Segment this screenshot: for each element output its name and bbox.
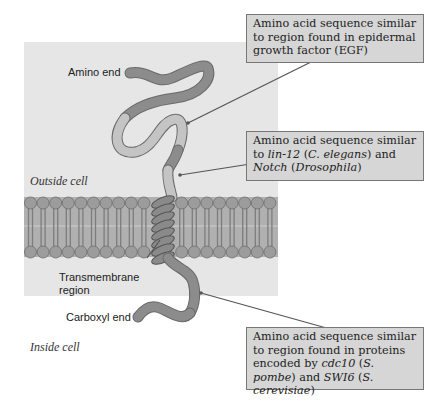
amino-end-label: Amino end [68,66,121,79]
callout-egf: Amino acid sequence similar to region fo… [246,14,424,63]
carboxyl-end-label: Carboxyl end [66,311,131,324]
transmembrane-label-line2: region [59,284,139,297]
callout-cdc10-swi6: Amino acid sequence similar to region fo… [246,327,424,390]
lipid-bilayer [24,197,278,258]
transmembrane-label-line1: Transmembrane [59,271,139,284]
transmembrane-label: Transmembrane region [59,271,139,297]
inside-cell-label: Inside cell [30,340,80,355]
callout-lin12-notch: Amino acid sequence similar to lin-12 (C… [246,131,424,181]
outside-cell-label: Outside cell [30,174,88,189]
